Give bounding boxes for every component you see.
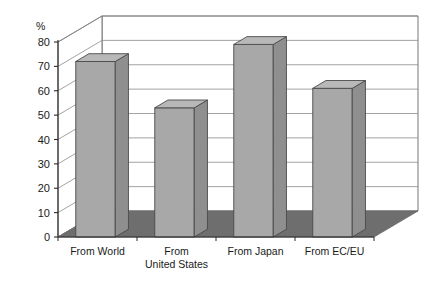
y-axis-tick-label: 10 bbox=[38, 207, 50, 219]
bar-side-face bbox=[115, 54, 128, 237]
x-axis-category-label: From EC/EU bbox=[305, 245, 365, 257]
y-axis-tick-label: 70 bbox=[38, 60, 50, 72]
bar-chart-figure: 01020304050607080%From WorldFromUnited S… bbox=[0, 0, 432, 281]
y-axis-tick-label: 30 bbox=[38, 158, 50, 170]
y-axis-unit-label: % bbox=[36, 20, 45, 32]
x-axis-category-label: From World bbox=[70, 245, 125, 257]
x-axis-category-label: From bbox=[164, 245, 189, 257]
y-axis-tick-label: 40 bbox=[38, 134, 50, 146]
bar-front-face bbox=[76, 62, 116, 238]
bar-column bbox=[155, 100, 208, 237]
y-axis-tick-label: 50 bbox=[38, 109, 50, 121]
bar-column bbox=[234, 37, 287, 237]
bar-side-face bbox=[194, 100, 207, 237]
bar-side-face bbox=[273, 37, 286, 237]
y-axis-tick-label: 0 bbox=[44, 231, 50, 243]
bar-side-face bbox=[352, 81, 365, 237]
y-axis-tick-label: 60 bbox=[38, 85, 50, 97]
chart-canvas: 01020304050607080%From WorldFromUnited S… bbox=[0, 0, 432, 281]
bar-front-face bbox=[234, 44, 274, 237]
bar-front-face bbox=[155, 108, 195, 237]
x-axis-category-label: United States bbox=[145, 258, 208, 270]
x-axis-category-label: From Japan bbox=[227, 245, 283, 257]
bar-column bbox=[313, 81, 366, 237]
bar-column bbox=[76, 54, 129, 237]
y-axis-tick-label: 80 bbox=[38, 36, 50, 48]
y-axis-tick-label: 20 bbox=[38, 182, 50, 194]
bar-front-face bbox=[313, 88, 353, 237]
